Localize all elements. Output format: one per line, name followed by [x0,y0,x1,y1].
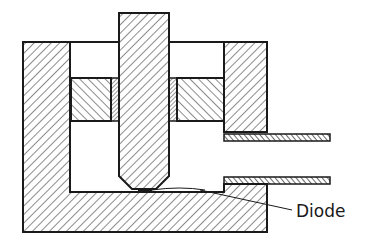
outer-housing-right-wall [224,42,267,132]
insert-block-left [71,78,111,121]
diode-whisker [152,188,205,190]
insulating-sleeve-right [169,78,177,121]
diode-label: Diode [296,201,345,221]
coax-tube-lower [224,177,330,184]
diode-mount-diagram: Diode [0,0,377,245]
diode-chip [138,188,152,192]
coax-tube-upper [224,134,330,141]
plunger [119,13,169,189]
insulating-sleeve-left [111,78,119,121]
insert-block-right [177,78,224,121]
